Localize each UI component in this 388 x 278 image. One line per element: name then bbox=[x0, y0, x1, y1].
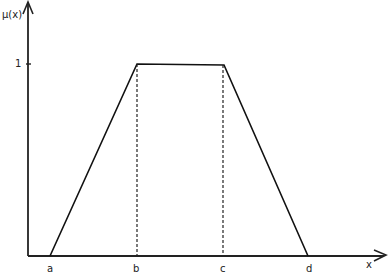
y-axis-label: μ(x) bbox=[2, 10, 22, 20]
y-tick-label: 1 bbox=[15, 59, 21, 69]
x-axis-label: x bbox=[366, 260, 372, 270]
trapezoid-curve bbox=[50, 64, 308, 256]
point-label-b: b bbox=[133, 264, 139, 274]
point-label-c: c bbox=[220, 264, 226, 274]
point-label-a: a bbox=[47, 264, 53, 274]
membership-function-diagram bbox=[0, 0, 388, 278]
point-label-d: d bbox=[306, 264, 312, 274]
